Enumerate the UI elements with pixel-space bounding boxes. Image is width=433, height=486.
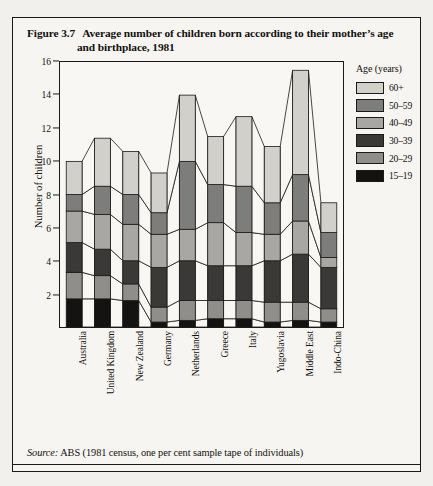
source-divider (13, 464, 420, 465)
bar-segment (236, 319, 252, 327)
x-axis-label: Italy (247, 331, 258, 348)
x-axis-label: New Zealand (134, 331, 145, 381)
bar-segment (151, 267, 167, 307)
connecting-band (195, 261, 207, 301)
legend-label: 50–59 (389, 100, 412, 111)
bar-segment (66, 161, 82, 194)
y-tick-label: 2 (23, 289, 51, 300)
bar-segment (66, 243, 82, 273)
bar-segment (293, 320, 309, 327)
bar-segment (123, 151, 139, 194)
legend-label: 20–29 (389, 153, 412, 164)
bar-segment (95, 276, 111, 299)
y-tick-label: 16 (23, 56, 51, 67)
bar-segment (179, 261, 195, 301)
stacked-bar-svg (60, 62, 343, 327)
legend-items: 60+50–5940–4930–3920–2915–19 (356, 79, 422, 185)
bar-segment (236, 186, 252, 232)
source-note: Source: ABS (1981 census, one per cent s… (27, 447, 303, 458)
bar-segment (321, 309, 337, 322)
legend-item: 60+ (356, 79, 422, 97)
legend-title: Age (years) (356, 63, 422, 74)
bar-segment (95, 214, 111, 249)
connecting-band (252, 233, 264, 266)
bar-segment (236, 266, 252, 301)
legend-swatch (356, 152, 384, 165)
bar-segment (264, 146, 280, 202)
connecting-band (82, 138, 94, 194)
bar-segment (66, 195, 82, 212)
legend-swatch (356, 117, 384, 130)
bar-segment (208, 185, 224, 223)
legend-label: 15–19 (389, 170, 412, 181)
y-tick-label: 10 (23, 156, 51, 167)
bar-segment (321, 257, 337, 267)
legend-item: 15–19 (356, 167, 422, 185)
bar-segment (208, 137, 224, 185)
connecting-band (252, 261, 264, 302)
chart-region: Number of children 246810121416 Australi… (13, 18, 422, 473)
legend-item: 50–59 (356, 97, 422, 115)
legend-label: 40–49 (389, 117, 412, 128)
bar-segment (236, 117, 252, 187)
bar-segment (208, 301, 224, 319)
bar-segment (321, 203, 337, 233)
bar-segment (66, 299, 82, 327)
connecting-band (82, 299, 94, 327)
bar-segment (264, 261, 280, 302)
legend-swatch (356, 82, 384, 95)
bar-segment (236, 301, 252, 319)
bar-segment (179, 301, 195, 321)
legend-swatch (356, 134, 384, 147)
bar-segment (179, 95, 195, 161)
legend-label: 30–39 (389, 135, 412, 146)
bar-segment (264, 203, 280, 234)
x-axis-label: Netherlands (190, 331, 201, 376)
bar-segment (293, 70, 309, 174)
connecting-band (252, 301, 264, 323)
y-tick-label: 14 (23, 89, 51, 100)
bar-segment (95, 138, 111, 186)
bar-segment (123, 261, 139, 284)
y-tick-label: 8 (23, 189, 51, 200)
bar-segment (208, 266, 224, 301)
y-axis-label: Number of children (33, 112, 44, 262)
legend-item: 30–39 (356, 132, 422, 150)
bar-segment (293, 221, 309, 254)
bar-segment (151, 307, 167, 322)
bar-segment (236, 233, 252, 266)
bar-segment (95, 299, 111, 327)
connecting-band (280, 302, 292, 322)
legend: Age (years) 60+50–5940–4930–3920–2915–19 (356, 63, 422, 185)
bar-segment (264, 302, 280, 322)
bar-segment (151, 234, 167, 267)
y-tick-label: 4 (23, 256, 51, 267)
connecting-band (224, 117, 236, 187)
bar-segment (123, 195, 139, 225)
source-text: ABS (1981 census, one per cent sample ta… (60, 447, 303, 458)
connecting-band (82, 272, 94, 299)
connecting-band (110, 138, 122, 194)
legend-label: 60+ (389, 82, 403, 93)
plot-area (59, 61, 344, 328)
bar-segment (264, 322, 280, 327)
bar-segment (179, 229, 195, 260)
bar-segment (293, 254, 309, 302)
connecting-band (167, 261, 179, 307)
bar-segment (66, 272, 82, 299)
bar-segment (293, 302, 309, 320)
connecting-band (195, 301, 207, 321)
connecting-band (110, 299, 122, 327)
y-axis: Number of children 246810121416 (13, 61, 59, 329)
bar-segment (321, 322, 337, 327)
x-axis-label: Middle East (304, 331, 315, 377)
bar-segment (151, 213, 167, 235)
bar-segment (151, 322, 167, 327)
bar-segment (208, 319, 224, 327)
figure-container: Figure 3.7Average number of children bor… (12, 17, 421, 472)
bar-segment (95, 249, 111, 276)
x-axis-labels: AustraliaUnited KingdomNew ZealandGerman… (59, 331, 344, 427)
bar-segment (123, 284, 139, 301)
bar-segment (151, 173, 167, 213)
legend-swatch (356, 99, 384, 112)
